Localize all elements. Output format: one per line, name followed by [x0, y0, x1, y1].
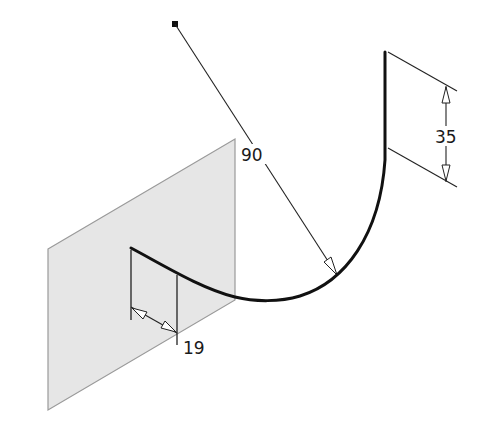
- radius-dimension-label[interactable]: 90: [241, 145, 263, 165]
- work-plane[interactable]: [48, 139, 235, 410]
- offset-dimension-label[interactable]: 19: [183, 338, 205, 358]
- radius-arrowhead-icon: [324, 257, 337, 275]
- height-arrowhead-top-icon: [442, 87, 450, 103]
- height-dimension-label[interactable]: 35: [435, 127, 457, 147]
- diagram-canvas: 90 35 19: [0, 0, 483, 421]
- sketch-drawing: 90 35 19: [0, 0, 483, 421]
- height-extension-line-top: [388, 52, 457, 91]
